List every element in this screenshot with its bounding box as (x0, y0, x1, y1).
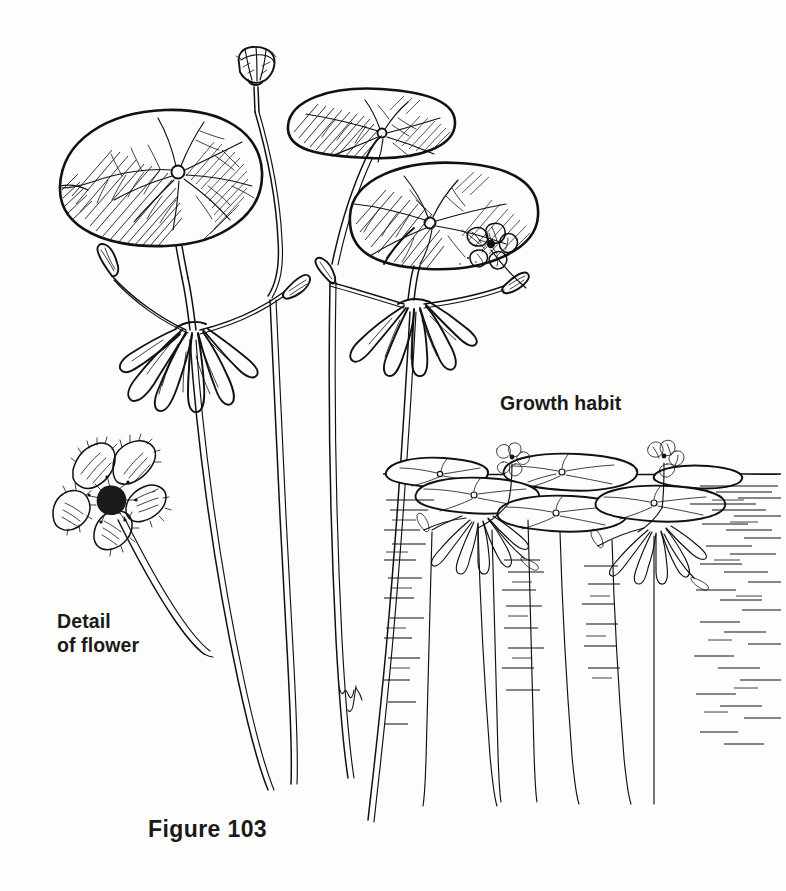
main-plant-right (288, 89, 538, 822)
bud-top-left (236, 47, 276, 112)
habit-bud-right-2 (691, 577, 708, 590)
peduncle-left-top (255, 112, 283, 298)
root-cluster-right (350, 303, 477, 376)
node-left (97, 244, 310, 412)
habit-node-right (591, 526, 708, 590)
bud-right-plant-right (502, 273, 529, 294)
leaf-right-lower (350, 163, 538, 288)
botanical-illustration (0, 0, 786, 891)
detail-of-flower-label: Detail of flower (57, 610, 139, 658)
habit-bud-right (591, 529, 603, 548)
growth-habit-label: Growth habit (500, 392, 621, 416)
growth-habit-scene (383, 440, 781, 806)
root-cluster-left (120, 329, 258, 412)
illustration-page: Growth habit Detail of flower Figure 103 (0, 0, 786, 891)
bud-left-lateral (97, 244, 118, 276)
figure-caption: Figure 103 (148, 815, 267, 843)
main-plant-left (60, 47, 310, 790)
bud-right-lateral (283, 275, 310, 299)
leaf-left (60, 110, 262, 278)
artist-signature (339, 686, 362, 711)
node-right (315, 258, 528, 376)
